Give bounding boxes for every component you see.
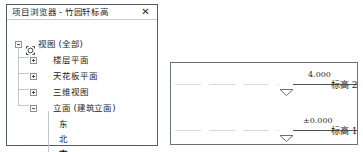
project-browser-title: 项目浏览器 - 竹园轩标高 xyxy=(12,6,109,18)
tree-guide-horizontal-3 xyxy=(18,105,29,106)
tree-item-5[interactable]: 东 xyxy=(7,117,157,132)
level-elevation-value[interactable]: ±0.000 xyxy=(303,116,333,126)
tree-item-label: 北 xyxy=(59,133,68,146)
tree-item-label: 东 xyxy=(59,118,68,131)
tree-item-7[interactable]: 南 xyxy=(7,147,157,152)
tree-item-label: 立面 (建筑立面) xyxy=(53,102,115,115)
project-browser-panel: 项目浏览器 - 竹园轩标高 ✕ 视图 (全部)楼层平面天花板平面三维视图立面 (… xyxy=(6,4,158,146)
expand-plus-icon[interactable] xyxy=(30,73,37,80)
tree-item-1[interactable]: 楼层平面 xyxy=(7,53,157,68)
tree-guide-vertical-elev xyxy=(48,111,49,152)
tree-item-label: 南 xyxy=(59,148,68,152)
level-elevation-value[interactable]: 4.000 xyxy=(308,70,331,80)
tree-item-label: 天花板平面 xyxy=(53,70,98,83)
views-icon xyxy=(26,40,35,49)
close-icon[interactable]: ✕ xyxy=(139,5,152,18)
tree-item-2[interactable]: 天花板平面 xyxy=(7,69,157,84)
tree-guide-horizontal-0 xyxy=(18,57,29,58)
tree-item-label: 视图 (全部) xyxy=(38,38,83,51)
level-head-triangle-icon[interactable] xyxy=(279,127,294,134)
elevation-view-canvas[interactable]: 4.000标高 2±0.000标高 1 xyxy=(170,62,358,145)
expand-plus-icon[interactable] xyxy=(30,89,37,96)
tree-guide-vertical xyxy=(18,47,19,105)
level-datum-line xyxy=(175,130,279,131)
tree-item-0[interactable]: 视图 (全部) xyxy=(7,37,157,52)
tree-guide-horizontal-1 xyxy=(18,73,29,74)
level-name-label[interactable]: 标高 1 xyxy=(331,125,358,137)
tree-item-label: 三维视图 xyxy=(53,86,89,99)
level-datum-line xyxy=(175,84,279,85)
collapse-minus-icon[interactable] xyxy=(30,105,37,112)
project-browser-titlebar: 项目浏览器 - 竹园轩标高 ✕ xyxy=(7,5,157,20)
tree-item-label: 楼层平面 xyxy=(53,54,89,67)
level-head-triangle-icon[interactable] xyxy=(279,81,294,88)
tree-item-3[interactable]: 三维视图 xyxy=(7,85,157,100)
tree-item-6[interactable]: 北 xyxy=(7,132,157,147)
level-name-label[interactable]: 标高 2 xyxy=(331,79,358,91)
tree-guide-horizontal-2 xyxy=(18,89,29,90)
tree-item-4[interactable]: 立面 (建筑立面) xyxy=(7,101,157,116)
expand-plus-icon[interactable] xyxy=(30,57,37,64)
